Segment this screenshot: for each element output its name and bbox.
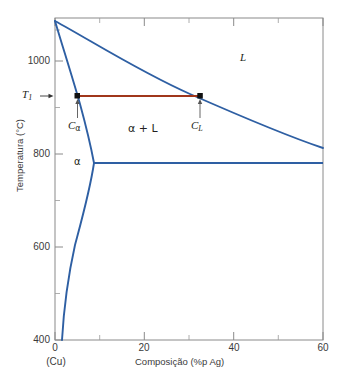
x-tick-label-20: 20 xyxy=(132,343,156,353)
c-liquid-marker xyxy=(197,93,203,99)
region-label-alpha: α xyxy=(74,157,81,167)
region-label-liquid: L xyxy=(240,52,246,63)
c-liquid-arrow xyxy=(198,99,202,118)
region-label-alpha-plus-liquid: α + L xyxy=(128,123,158,134)
x-axis-title: Composição (%p Ag) xyxy=(135,357,224,367)
x-tick-label-0: 0 xyxy=(43,343,67,353)
plot-frame xyxy=(55,18,323,340)
c-alpha-label: Cα xyxy=(68,120,81,133)
t1-arrow xyxy=(40,94,54,98)
solidus-curve xyxy=(55,21,94,163)
c-alpha-subscript: α xyxy=(75,124,80,133)
y-minor-ticks xyxy=(55,30,60,294)
liquidus-curve xyxy=(55,21,323,148)
c-liquid-subscript: L xyxy=(198,124,202,133)
c-alpha-marker xyxy=(75,93,81,99)
plot-canvas xyxy=(0,0,342,384)
t1-subscript: 1 xyxy=(28,93,32,102)
y-tick-label-600: 600 xyxy=(18,242,50,252)
phase-diagram-figure: 400 600 800 1000 T1 Temperatura (°C) 0 2… xyxy=(0,0,342,384)
c-liquid-label: CL xyxy=(191,120,203,133)
y-tick-label-1000: 1000 xyxy=(12,56,50,66)
x-major-ticks xyxy=(55,18,323,340)
x-tick-label-60: 60 xyxy=(311,343,335,353)
x-minor-ticks xyxy=(100,18,279,340)
y-axis-title: Temperatura (°C) xyxy=(14,101,25,211)
x-tick-label-40: 40 xyxy=(222,343,246,353)
solvus-curve xyxy=(62,163,94,340)
x-axis-endpoint-label: (Cu) xyxy=(40,357,72,367)
